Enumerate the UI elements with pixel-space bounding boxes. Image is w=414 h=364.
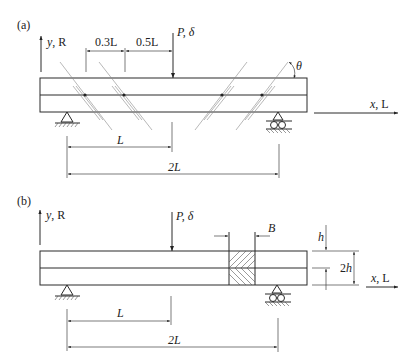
angle-label: θ	[296, 59, 302, 73]
two-h-label: 2h	[340, 261, 352, 275]
load-label-b: P, δ	[175, 209, 194, 223]
dim-2L-label: 2L	[168, 160, 181, 174]
cracks-left	[60, 62, 152, 130]
y-axis-label: y, R	[46, 35, 66, 49]
pin-support-b	[55, 285, 80, 300]
spacing-1-label: 0.3L	[95, 35, 117, 49]
beam-diagram: (a) y, R θ	[0, 0, 414, 364]
hatched-zone	[214, 232, 270, 285]
x-axis-label: x, L	[369, 97, 389, 111]
h-label: h	[318, 230, 324, 244]
panel-a: (a) y, R θ	[17, 18, 398, 178]
y-axis-label-b: y, R	[45, 208, 65, 222]
crack-point	[83, 93, 86, 96]
crack-point	[220, 93, 223, 96]
dim-L-label: L	[116, 133, 124, 147]
dim-2L-label-b: 2L	[168, 333, 181, 347]
crack-point	[260, 93, 263, 96]
width-label: B	[268, 221, 276, 235]
spacing-2-label: 0.5L	[136, 35, 158, 49]
roller-support-b	[265, 285, 291, 306]
panel-b: (b) y, R B P, δ	[17, 194, 398, 352]
pin-support	[55, 112, 80, 127]
angle-arc	[289, 62, 295, 78]
crack-point	[122, 93, 125, 96]
panel-b-label: (b)	[17, 194, 31, 208]
x-axis-label-b: x, L	[370, 271, 390, 285]
roller-support	[266, 112, 292, 133]
load-label: P, δ	[176, 25, 195, 39]
y-axis-rest: , R	[52, 35, 66, 49]
dim-L-label-b: L	[116, 306, 124, 320]
panel-a-label: (a)	[17, 18, 30, 32]
